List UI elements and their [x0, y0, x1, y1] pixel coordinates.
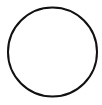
- circle-drawing: [0, 0, 102, 105]
- background: [0, 0, 102, 105]
- drawing-canvas: [0, 0, 102, 105]
